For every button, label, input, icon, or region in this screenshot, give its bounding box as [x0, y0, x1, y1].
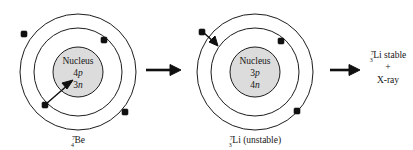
product-plus-sign: + [385, 62, 390, 72]
product-label-group: 73Li stable + X-ray [370, 50, 407, 86]
caption-atom-beryllium-7: 74Be [71, 135, 85, 148]
neutron-count-atom2: 4n [250, 80, 260, 90]
electron-dot-atom2-inner-upper-right [278, 38, 284, 44]
electron-dot-atom2-inner-lower-right [294, 108, 300, 114]
product-isotope-label: 73Li stable [370, 50, 407, 63]
nucleus-label-atom1: Nucleus [62, 56, 93, 66]
proton-count-atom2: 3p [250, 68, 260, 78]
electron-dot-atom1-outer-lower-right [122, 109, 128, 115]
product-xray-label: X-ray [377, 75, 399, 85]
electron-dot-atom1-inner-upper-right [101, 37, 107, 43]
electron-dot-atom1-outer-upper-left [21, 31, 27, 37]
proton-count-atom1: 4p [73, 68, 83, 78]
nucleus-label-atom2: Nucleus [239, 56, 270, 66]
decay-arrow-2 [330, 65, 360, 76]
atom-lithium-7-unstable: Nucleus 3p 4n [197, 14, 313, 130]
caption-atom-lithium-7-unstable: 73Li (unstable) [229, 135, 281, 148]
electron-dot-atom2-outer-upper-left [199, 29, 205, 35]
electron-capture-figure: Nucleus 4p 3n Nucleu [0, 0, 413, 150]
decay-arrow-1 [146, 65, 181, 76]
neutron-count-atom1: 3n [73, 80, 83, 90]
atom-beryllium-7: Nucleus 4p 3n [20, 14, 136, 130]
